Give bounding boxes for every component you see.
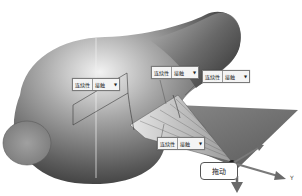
y-axis-label: Y bbox=[290, 174, 294, 181]
continuity-dropdown[interactable]: 接触▼ bbox=[93, 79, 119, 90]
continuity-label: 连续性 bbox=[203, 71, 223, 82]
chevron-down-icon: ▼ bbox=[114, 82, 117, 87]
model-canvas[interactable] bbox=[0, 0, 302, 196]
3d-viewport[interactable]: 连续性 接触▼ 连续性 接触▼ 连续性 接触▼ 连续性 接触▼ 拖动 Y bbox=[0, 0, 302, 196]
continuity-label: 连续性 bbox=[152, 67, 172, 78]
continuity-dropdown[interactable]: 接触▼ bbox=[172, 67, 198, 78]
continuity-handle[interactable]: 连续性 接触▼ bbox=[157, 137, 205, 150]
continuity-dropdown[interactable]: 接触▼ bbox=[178, 138, 204, 149]
chevron-down-icon: ▼ bbox=[244, 74, 247, 79]
continuity-handle[interactable]: 连续性 接触▼ bbox=[72, 78, 120, 91]
continuity-label: 连续性 bbox=[73, 79, 93, 90]
drag-callout: 拖动 bbox=[200, 162, 238, 180]
continuity-handle[interactable]: 连续性 接触▼ bbox=[151, 66, 199, 79]
drag-down-arrow bbox=[231, 182, 243, 193]
chevron-down-icon: ▼ bbox=[193, 70, 196, 75]
continuity-dropdown[interactable]: 接触▼ bbox=[223, 71, 249, 82]
chevron-down-icon: ▼ bbox=[199, 141, 202, 146]
continuity-handle[interactable]: 连续性 接触▼ bbox=[202, 70, 250, 83]
continuity-label: 连续性 bbox=[158, 138, 178, 149]
end-cap bbox=[3, 121, 51, 165]
